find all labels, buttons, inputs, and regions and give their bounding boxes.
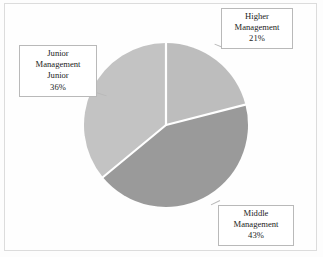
label-value: 36% bbox=[24, 82, 92, 93]
label-line-1: Junior bbox=[24, 48, 92, 59]
data-label-middle-management[interactable]: Middle Management 43% bbox=[218, 205, 294, 246]
data-label-junior-management[interactable]: Junior Management Junior 36% bbox=[19, 45, 97, 97]
data-label-higher-management[interactable]: Higher Management 21% bbox=[221, 8, 293, 49]
label-value: 43% bbox=[223, 230, 289, 241]
label-line-1: Middle bbox=[223, 208, 289, 219]
label-line-1: Higher bbox=[226, 11, 288, 22]
pie-svg bbox=[84, 43, 248, 207]
label-value: 21% bbox=[226, 33, 288, 44]
label-line-2: Management bbox=[24, 59, 92, 70]
pie-chart bbox=[84, 43, 248, 207]
label-line-3: Junior bbox=[24, 70, 92, 81]
label-line-2: Management bbox=[223, 219, 289, 230]
label-line-2: Management bbox=[226, 22, 288, 33]
pie-chart-figure: Higher Management 21% Junior Management … bbox=[0, 0, 323, 257]
